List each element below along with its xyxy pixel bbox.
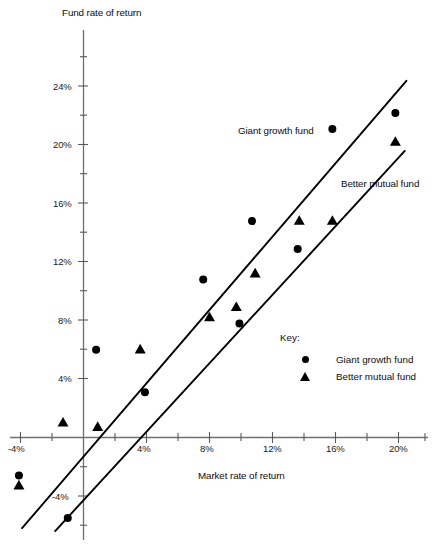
data-point-circle-0 [15,472,23,480]
x-axis-title: Market rate of return [198,471,285,481]
data-point-triangle-6 [250,268,261,278]
annotation-better-mutual-fund: Better mutual fund [341,179,419,189]
x-tick-label-8: 8% [200,444,214,454]
key-title: Key: [280,332,430,343]
data-point-triangle-9 [390,136,401,146]
y-tick-label-8: 8% [58,316,72,326]
data-point-triangle-0 [13,480,24,490]
scatter-chart: Fund rate of return Market rate of retur… [0,0,437,549]
triangle-marker-icon [294,372,316,381]
data-point-circle-5 [235,319,243,327]
data-point-triangle-2 [92,421,103,431]
trend-line-giant-growth-fund [22,81,406,528]
y-tick-label-24: 24% [53,82,72,92]
data-point-circle-8 [328,125,336,133]
data-point-triangle-5 [231,301,242,311]
y-tick-label-neg4: -4% [52,492,69,502]
data-point-circle-2 [92,346,100,354]
chart-key: Key: Giant growth fund Better mutual fun… [280,332,430,385]
data-point-triangle-8 [327,215,338,225]
y-tick-label-12: 12% [53,257,72,267]
circle-marker-icon [294,356,316,363]
key-row-better-mutual-fund: Better mutual fund [294,368,430,385]
x-tick-label-16: 16% [326,444,345,454]
data-point-circle-4 [199,276,207,284]
data-point-circle-9 [391,109,399,117]
data-point-triangle-7 [294,215,305,225]
data-point-circle-3 [141,388,149,396]
y-axis-title: Fund rate of return [62,8,141,18]
key-row-giant-growth-fund: Giant growth fund [294,351,430,368]
data-point-circle-6 [248,217,256,225]
y-tick-label-4: 4% [58,374,72,384]
y-tick-label-16: 16% [53,199,72,209]
x-tick-label-neg4: -4% [8,444,25,454]
x-tick-label-4: 4% [137,444,151,454]
data-point-triangle-3 [135,344,146,354]
key-label-better-mutual-fund: Better mutual fund [336,371,416,382]
annotation-giant-growth-fund: Giant growth fund [238,126,314,136]
data-point-triangle-1 [58,417,69,427]
x-tick-label-12: 12% [263,444,282,454]
y-tick-label-20: 20% [53,140,72,150]
trend-lines [22,81,406,531]
data-point-circle-7 [294,245,302,253]
x-tick-label-20: 20% [389,444,408,454]
data-point-circle-1 [64,514,72,522]
key-label-giant-growth-fund: Giant growth fund [336,354,413,365]
